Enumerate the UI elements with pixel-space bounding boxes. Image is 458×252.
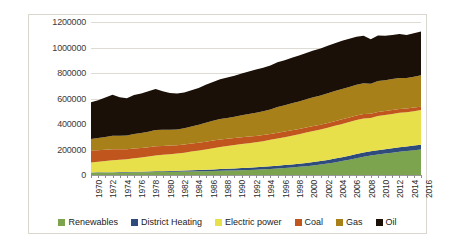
x-axis-tickmark [356, 175, 357, 178]
x-axis-tickmark [170, 175, 171, 178]
x-axis: 1970197219741976197819801982198419861988… [91, 175, 421, 217]
x-axis-tickmark [105, 175, 106, 178]
x-axis-tickmark [335, 175, 336, 178]
x-axis-tickmark [148, 175, 149, 178]
x-axis-tick-label: 1998 [296, 180, 305, 198]
x-axis-tick-label: 1974 [124, 180, 133, 198]
x-axis-tickmark [299, 175, 300, 178]
x-axis-tick-label: 2000 [310, 180, 319, 198]
x-axis-tickmark [134, 175, 135, 178]
x-axis-tick-label: 1996 [282, 180, 291, 198]
x-axis-tickmark [227, 175, 228, 178]
legend-swatch-icon [58, 219, 65, 226]
x-axis-tickmark [392, 175, 393, 178]
x-axis-tick-label: 1992 [253, 180, 262, 198]
x-axis-tickmark [407, 175, 408, 178]
x-axis-tick-label: 2010 [382, 180, 391, 198]
x-axis-tick-label: 1986 [210, 180, 219, 198]
x-axis-tickmark [256, 175, 257, 178]
x-axis-tickmark [371, 175, 372, 178]
x-axis-tickmark [285, 175, 286, 178]
x-axis-tickmark [141, 175, 142, 178]
x-axis-tickmark [206, 175, 207, 178]
x-axis-tickmark [199, 175, 200, 178]
x-axis-tickmark [414, 175, 415, 178]
x-axis-tick-label: 2014 [411, 180, 420, 198]
x-axis-tickmark [385, 175, 386, 178]
x-axis-tickmark [191, 175, 192, 178]
x-axis-tickmark [349, 175, 350, 178]
legend-label: Oil [386, 218, 397, 227]
x-axis-tickmark [213, 175, 214, 178]
y-axis-tick-label: 0 [81, 171, 86, 180]
legend-swatch-icon [336, 219, 343, 226]
x-axis-tickmark [421, 175, 422, 178]
x-axis-tickmark [98, 175, 99, 178]
x-axis-tickmark [321, 175, 322, 178]
legend-label: Gas [346, 218, 363, 227]
x-axis-tickmark [234, 175, 235, 178]
x-axis-tickmark [184, 175, 185, 178]
x-axis-tickmark [263, 175, 264, 178]
x-axis-tickmark [328, 175, 329, 178]
x-axis-tickmark [156, 175, 157, 178]
x-axis-tickmark [364, 175, 365, 178]
x-axis-tickmark [177, 175, 178, 178]
x-axis-tick-label: 1994 [267, 180, 276, 198]
x-axis-tick-label: 1976 [138, 180, 147, 198]
x-axis-tick-label: 1970 [95, 180, 104, 198]
x-axis-tickmark [378, 175, 379, 178]
legend-item-oil[interactable]: Oil [376, 218, 397, 227]
y-axis-tick-label: 600000 [57, 94, 86, 103]
x-axis-tickmark [220, 175, 221, 178]
x-axis-tick-label: 2002 [325, 180, 334, 198]
legend-item-electric-power[interactable]: Electric power [215, 218, 282, 227]
x-axis-tickmark [313, 175, 314, 178]
y-axis-tick-label: 800000 [57, 69, 86, 78]
legend-item-district-heating[interactable]: District Heating [131, 218, 202, 227]
legend-swatch-icon [215, 219, 222, 226]
x-axis-tick-label: 1988 [224, 180, 233, 198]
legend-label: District Heating [141, 218, 202, 227]
y-axis: 020000040000060000080000010000001200000 [29, 15, 91, 175]
x-axis-tick-label: 2004 [339, 180, 348, 198]
legend-item-coal[interactable]: Coal [295, 218, 324, 227]
plot-wrapper: 020000040000060000080000010000001200000 … [29, 15, 426, 233]
y-axis-tick-label: 400000 [57, 120, 86, 129]
legend-swatch-icon [376, 219, 383, 226]
x-axis-tickmark [399, 175, 400, 178]
x-axis-tickmark [113, 175, 114, 178]
legend-label: Electric power [225, 218, 282, 227]
x-axis-tickmark [292, 175, 293, 178]
x-axis-tick-label: 1984 [195, 180, 204, 198]
legend-label: Coal [305, 218, 324, 227]
y-axis-tick-label: 200000 [57, 145, 86, 154]
x-axis-tick-label: 1978 [152, 180, 161, 198]
x-axis-tickmark [163, 175, 164, 178]
x-axis-tick-label: 2012 [396, 180, 405, 198]
x-axis-tickmark [306, 175, 307, 178]
x-axis-tick-label: 1990 [238, 180, 247, 198]
legend-swatch-icon [295, 219, 302, 226]
legend-item-renewables[interactable]: Renewables [58, 218, 118, 227]
plot-area [91, 22, 421, 175]
x-axis-tickmark [270, 175, 271, 178]
stacked-area-series [91, 22, 421, 175]
x-axis-tickmark [249, 175, 250, 178]
y-axis-tick-label: 1000000 [52, 43, 86, 52]
x-axis-tick-label: 1980 [167, 180, 176, 198]
x-axis-tick-label: 2008 [368, 180, 377, 198]
x-axis-tickmark [342, 175, 343, 178]
x-axis-tick-label: 2006 [353, 180, 362, 198]
x-axis-tick-label: 1972 [109, 180, 118, 198]
legend-swatch-icon [131, 219, 138, 226]
x-axis-tick-label: 2016 [425, 180, 434, 198]
chart-frame: 020000040000060000080000010000001200000 … [28, 14, 427, 234]
legend-label: Renewables [68, 218, 118, 227]
x-axis-tickmark [120, 175, 121, 178]
y-axis-tick-label: 1200000 [52, 18, 86, 27]
legend-item-gas[interactable]: Gas [336, 218, 363, 227]
x-axis-tickmark [127, 175, 128, 178]
x-axis-tickmark [278, 175, 279, 178]
x-axis-tick-label: 1982 [181, 180, 190, 198]
